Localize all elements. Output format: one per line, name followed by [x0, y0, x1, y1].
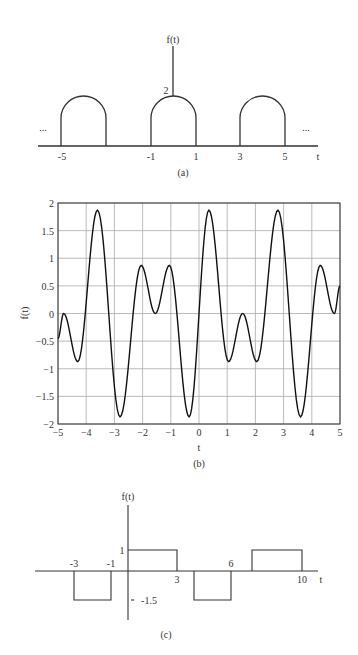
chart-b-x-tick: −1 [165, 427, 176, 438]
chart-c-segment-1 [74, 571, 111, 600]
chart-b-ylabel: f(t) [19, 307, 31, 320]
chart-a-labels: f(t) 2 ... ... -5 -1 1 3 5 t (a) [39, 34, 319, 179]
chart-b-xlabel: t [198, 442, 201, 453]
chart-b-x-tick: −3 [109, 427, 120, 438]
chart-c-xlabel: t [320, 574, 323, 585]
chart-b-y-tick: 1 [49, 253, 54, 264]
chart-a-pulse-1 [61, 96, 106, 146]
chart-b-x-tick: 0 [197, 427, 202, 438]
figure-canvas: f(t) 2 ... ... -5 -1 1 3 5 t (a) −5−4−3−… [0, 0, 358, 655]
chart-b-y-tick: 1.5 [42, 226, 55, 237]
chart-b-y-tick: 0.5 [42, 281, 55, 292]
chart-b-x-tick: 3 [281, 427, 286, 438]
chart-a-pulse-2 [151, 96, 196, 146]
chart-c-ytick: 1 [120, 545, 125, 556]
chart-b-y-tick: −1 [43, 364, 54, 375]
chart-a-xtick: 5 [283, 151, 288, 162]
chart-a-xtick: 3 [238, 151, 243, 162]
chart-c-ylabel: f(t) [122, 491, 135, 503]
chart-c-xtick: 10 [297, 574, 307, 585]
chart-c-xtick: 3 [175, 574, 180, 585]
chart-c-xtick: -1 [107, 558, 115, 569]
chart-b-x-tick: −2 [137, 427, 148, 438]
chart-b-x-tick: −5 [53, 427, 64, 438]
chart-c-ytick: -1.5 [141, 595, 157, 606]
chart-b-x-tick: −4 [81, 427, 92, 438]
chart-b-y-tick: 0 [49, 309, 54, 320]
chart-b-y-tick: 2 [49, 198, 54, 209]
chart-b-x-tick: 4 [309, 427, 314, 438]
chart-a-xlabel: t [317, 151, 320, 162]
chart-b-y-tick: −0.5 [36, 336, 54, 347]
chart-a-xtick: -5 [58, 151, 66, 162]
chart-b-caption: (b) [193, 458, 205, 470]
chart-a-ytick: 2 [164, 85, 169, 96]
chart-a-caption: (a) [177, 167, 188, 179]
chart-a-xtick: 1 [194, 151, 199, 162]
chart-c-xtick: -3 [70, 558, 78, 569]
chart-a-ellipsis-left: ... [39, 122, 47, 133]
chart-b-x-tick: 1 [225, 427, 230, 438]
chart-b-y-tick: −1.5 [36, 391, 54, 402]
chart-a-ellipsis-right: ... [302, 122, 310, 133]
chart-b: −5−4−3−2−1012345 21.510.50−0.5−1−1.5−2 t… [19, 198, 343, 470]
chart-c-labels: f(t) 1 -1.5 -3 -1 3 6 10 t (c) [70, 491, 323, 641]
chart-b-y-tick-labels: 21.510.50−0.5−1−1.5−2 [36, 198, 54, 430]
chart-a [38, 46, 318, 146]
chart-c-segment-4 [252, 550, 302, 571]
chart-b-x-tick: 2 [253, 427, 258, 438]
chart-a-pulse-3 [240, 96, 285, 146]
chart-c-segment-3 [194, 571, 231, 600]
chart-b-x-tick-labels: −5−4−3−2−1012345 [53, 427, 343, 438]
chart-a-xtick: -1 [147, 151, 155, 162]
chart-b-y-tick: −2 [43, 419, 54, 430]
chart-b-x-tick: 5 [338, 427, 343, 438]
chart-c-caption: (c) [160, 629, 171, 641]
chart-c-segment-2 [128, 550, 177, 571]
chart-a-ylabel: f(t) [167, 34, 180, 46]
chart-c-xtick: 6 [229, 558, 234, 569]
